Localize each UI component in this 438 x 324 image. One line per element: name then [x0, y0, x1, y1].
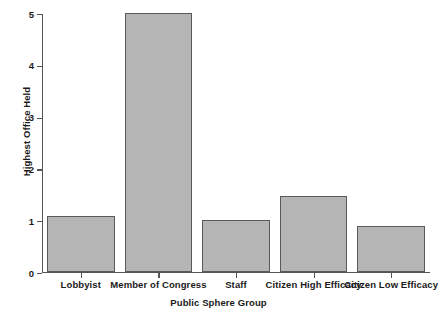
x-tick-mark — [236, 273, 237, 278]
x-tick-label: Member of Congress — [110, 279, 206, 290]
y-tick-mark — [37, 169, 42, 170]
y-tick-mark — [37, 66, 42, 67]
y-tick-mark — [37, 273, 42, 274]
bar — [202, 220, 270, 272]
bar — [47, 216, 115, 272]
x-tick-mark — [81, 273, 82, 278]
y-tick-label: 4 — [29, 59, 34, 72]
x-tick-label: Staff — [225, 279, 247, 290]
y-tick-label: 2 — [29, 163, 34, 176]
x-tick-label: Citizen Low Efficacy — [344, 279, 438, 290]
bar — [357, 226, 425, 272]
x-tick-mark — [391, 273, 392, 278]
x-tick-label: Lobbyist — [61, 279, 101, 290]
y-tick-label: 0 — [29, 267, 34, 280]
y-tick-label: 1 — [29, 215, 34, 228]
bar — [280, 196, 348, 272]
x-axis-title: Public Sphere Group — [0, 297, 437, 308]
bar — [125, 13, 193, 272]
x-tick-mark — [314, 273, 315, 278]
y-axis-line — [42, 14, 43, 273]
y-tick-label: 3 — [29, 111, 34, 124]
y-tick-mark — [37, 221, 42, 222]
y-tick-mark — [37, 118, 42, 119]
y-tick-label: 5 — [29, 8, 34, 21]
x-tick-mark — [158, 273, 159, 278]
y-tick-mark — [37, 14, 42, 15]
plot-area: 012345 — [42, 14, 430, 273]
